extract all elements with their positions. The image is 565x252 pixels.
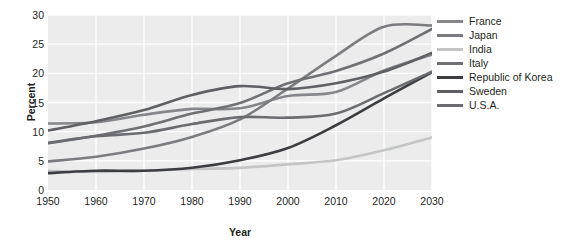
x-tick-label: 2000 — [265, 196, 311, 207]
legend-item: U.S.A. — [437, 99, 565, 113]
x-tick-label: 2030 — [409, 196, 455, 207]
legend-swatch-line-icon — [437, 62, 463, 65]
plot-area — [48, 15, 432, 190]
legend-swatch-line-icon — [437, 90, 463, 93]
y-tick-label: 5 — [4, 156, 44, 167]
legend-item: India — [437, 42, 565, 56]
legend-item-label: U.S.A. — [469, 100, 499, 111]
legend-item: Japan — [437, 28, 565, 42]
x-tick-label: 1950 — [25, 196, 71, 207]
y-tick-label: 25 — [4, 39, 44, 50]
y-axis-title: Percent — [25, 62, 37, 142]
legend-item-label: Republic of Korea — [469, 72, 552, 83]
chart-legend: FranceJapanIndiaItalyRepublic of KoreaSw… — [437, 14, 565, 113]
legend-swatch-line-icon — [437, 34, 463, 37]
legend-item: France — [437, 14, 565, 28]
x-tick-label: 1990 — [217, 196, 263, 207]
x-tick-label: 2010 — [313, 196, 359, 207]
legend-swatch-line-icon — [437, 76, 463, 79]
x-tick-label: 1970 — [121, 196, 167, 207]
legend-item-label: Sweden — [469, 86, 507, 97]
legend-item-label: Japan — [469, 30, 498, 41]
legend-item: Sweden — [437, 84, 565, 98]
x-tick-label: 1980 — [169, 196, 215, 207]
legend-swatch-line-icon — [437, 104, 463, 107]
plot-svg — [48, 15, 432, 190]
legend-swatch-line-icon — [437, 20, 463, 23]
legend-item-label: France — [469, 16, 502, 27]
line-chart-figure: 051015202530 195019601970198019902000201… — [0, 0, 565, 252]
legend-item-label: Italy — [469, 58, 488, 69]
legend-item-label: India — [469, 44, 492, 55]
y-axis-tick-labels: 051015202530 — [0, 0, 44, 210]
x-axis-title: Year — [155, 226, 325, 238]
y-tick-label: 30 — [4, 10, 44, 21]
legend-item: Republic of Korea — [437, 70, 565, 84]
x-tick-label: 2020 — [361, 196, 407, 207]
x-axis-tick-labels: 195019601970198019902000201020202030 — [0, 196, 480, 212]
x-tick-label: 1960 — [73, 196, 119, 207]
y-tick-label: 15 — [4, 98, 44, 109]
y-tick-label: 10 — [4, 127, 44, 138]
y-tick-label: 0 — [4, 185, 44, 196]
legend-swatch-line-icon — [437, 48, 463, 51]
legend-item: Italy — [437, 56, 565, 70]
y-tick-label: 20 — [4, 68, 44, 79]
